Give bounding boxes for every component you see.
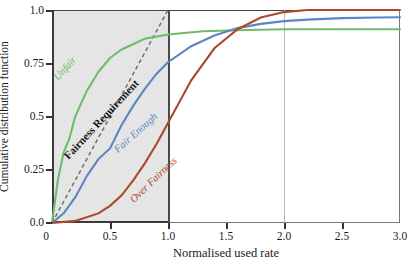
x-tick-05: [110, 223, 112, 229]
x-tick-20: [284, 223, 286, 229]
y-tick-075: [46, 63, 52, 65]
x-tick-label-0: 0: [43, 231, 49, 243]
y-tick-label-075: 0.75: [24, 58, 44, 70]
x-tick-label-15: 1.5: [219, 231, 233, 243]
x-tick-label-30: 3.0: [393, 231, 407, 243]
figure: 0.0 0.25 0.5 0.75 1.0 0 0.5 1.0 1.5 2.0 …: [0, 0, 416, 267]
y-tick-05: [46, 116, 52, 118]
x-tick-label-05: 0.5: [103, 231, 117, 243]
y-tick-0: [46, 222, 52, 224]
x-tick-label-20: 2.0: [277, 231, 291, 243]
y-tick-label-1: 1.0: [30, 5, 44, 17]
y-tick-025: [46, 169, 52, 171]
y-tick-label-025: 0.25: [24, 165, 44, 177]
y-tick-1: [46, 10, 52, 12]
x-tick-label-10: 1.0: [161, 231, 175, 243]
x-tick-10: [168, 223, 170, 229]
curve-unfair: [52, 29, 400, 223]
y-axis-title: Cumulative distribution function: [0, 10, 12, 223]
y-tick-label-05: 0.5: [30, 111, 44, 123]
x-axis-title: Normalised used rate: [52, 246, 400, 261]
y-tick-label-0: 0.0: [30, 217, 44, 229]
x-tick-25: [342, 223, 344, 229]
x-tick-label-25: 2.5: [335, 231, 349, 243]
x-tick-15: [226, 223, 228, 229]
